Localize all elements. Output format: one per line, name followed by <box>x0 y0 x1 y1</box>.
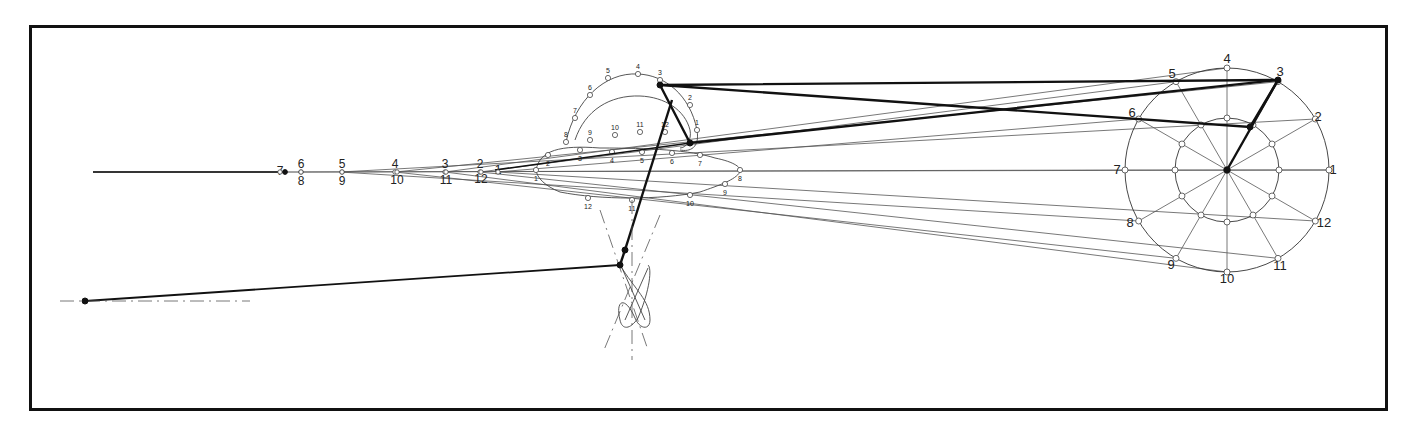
crank-center <box>1224 167 1230 173</box>
left-fan-labels: 765432189101112 <box>277 157 502 188</box>
rod-joint <box>622 247 628 253</box>
ray-a <box>600 210 648 350</box>
lower-curve-label: 5 <box>640 157 644 164</box>
upper-curve-label: 1 <box>695 119 699 126</box>
crank-label: 10 <box>1220 271 1234 286</box>
lower-curve-point <box>737 167 742 172</box>
upper-curve-label: 10 <box>611 124 619 131</box>
lower-curve-label: 6 <box>670 158 674 165</box>
lower-curve-point <box>687 192 692 197</box>
upper-curve-point <box>694 127 699 132</box>
crank-inner-point <box>1179 193 1185 199</box>
crank-label: 1 <box>1329 162 1336 177</box>
upper-curve-point <box>605 75 610 80</box>
crank-inner-point <box>1250 212 1256 218</box>
upper-curve-point <box>635 71 640 76</box>
lower-curve-point <box>577 147 582 152</box>
upper-curve-point <box>612 132 617 137</box>
crank-label: 12 <box>1317 215 1331 230</box>
coupler-link-upper <box>660 80 1278 127</box>
fan-label: 10 <box>390 173 404 187</box>
upper-curve-point <box>637 129 642 134</box>
lower-curve-label: 4 <box>610 157 614 164</box>
upper-curve-label: 3 <box>658 69 662 76</box>
fan-point <box>278 170 282 174</box>
lower-curve-point <box>585 195 590 200</box>
fan-label: 8 <box>298 174 305 188</box>
fan-label: 6 <box>298 157 305 171</box>
upper-curve-label: 5 <box>606 67 610 74</box>
lower-curve-point <box>669 150 674 155</box>
fan-label: 9 <box>339 174 346 188</box>
fan-point <box>395 170 399 174</box>
slider-coupler <box>495 143 690 170</box>
lower-curve-label: 1 <box>534 175 538 182</box>
crank-label: 4 <box>1223 51 1230 66</box>
upper-curve-label: 6 <box>588 84 592 91</box>
fan-point <box>496 170 500 174</box>
fan-label: 5 <box>339 157 346 171</box>
fan-label: 2 <box>477 157 484 171</box>
lower-curve-point <box>697 152 702 157</box>
lower-curve-label: 9 <box>723 189 727 196</box>
fan-label: 3 <box>442 157 449 171</box>
crank-label: 9 <box>1167 257 1174 272</box>
ground-pivot-left <box>82 298 88 304</box>
lower-curve-point <box>545 152 550 157</box>
crank-label: 8 <box>1126 215 1133 230</box>
lower-curve-label: 10 <box>686 200 694 207</box>
upper-curve-point <box>587 137 592 142</box>
crank-inner-point <box>1179 141 1185 147</box>
lower-curve-point <box>533 167 538 172</box>
upper-curve-point <box>687 102 692 107</box>
lower-curve-label: 7 <box>698 160 702 167</box>
crank-label: 5 <box>1168 66 1175 81</box>
crank-inner-point <box>1224 219 1230 225</box>
crank-inner-point <box>1269 141 1275 147</box>
fan-line <box>445 172 1227 272</box>
upper-curve-point <box>587 92 592 97</box>
crank-inner-point <box>1276 167 1282 173</box>
upper-curve-point <box>572 115 577 120</box>
upper-curve-label: 11 <box>636 121 643 128</box>
fan-point <box>479 170 483 174</box>
coupler-joint-top <box>657 82 663 88</box>
upper-curve-label: 4 <box>636 63 640 70</box>
upper-curve-label: 8 <box>564 131 568 138</box>
crank-inner-point <box>1269 193 1275 199</box>
upper-curve-label: 9 <box>588 129 592 136</box>
coupler-joint-bottom <box>687 140 693 146</box>
fan-label: 11 <box>440 173 453 187</box>
fan-point <box>444 170 448 174</box>
crank-outer-point <box>1136 218 1142 224</box>
crank-pin-outer <box>1275 77 1281 83</box>
crank-inner-point <box>1198 212 1204 218</box>
fan-label: 4 <box>392 157 399 171</box>
crank-label: 11 <box>1273 258 1287 273</box>
coupler-triangle <box>660 80 1278 143</box>
output-link <box>85 265 620 301</box>
crank-inner-point <box>1224 115 1230 121</box>
fan-point <box>299 170 303 174</box>
lower-curve-label: 8 <box>738 175 742 182</box>
upper-curve-label: 7 <box>573 107 577 114</box>
crank-outer-point <box>1122 167 1128 173</box>
fan-line <box>480 82 1176 172</box>
fan-line <box>497 119 1139 172</box>
rocker-pivot <box>617 262 623 268</box>
crank-label: 7 <box>1113 162 1120 177</box>
crank-label: 2 <box>1314 109 1321 124</box>
upper-curve-label: 2 <box>688 94 692 101</box>
upper-curve-point <box>563 139 568 144</box>
crank-pin-inner <box>1247 124 1253 130</box>
fan-point <box>340 170 344 174</box>
lower-curve-point <box>722 181 727 186</box>
linkage-diagram: 123456789101112 123456789101112123456789… <box>0 0 1412 426</box>
lower-curve-label: 12 <box>584 203 592 210</box>
crank-inner-point <box>1172 167 1178 173</box>
